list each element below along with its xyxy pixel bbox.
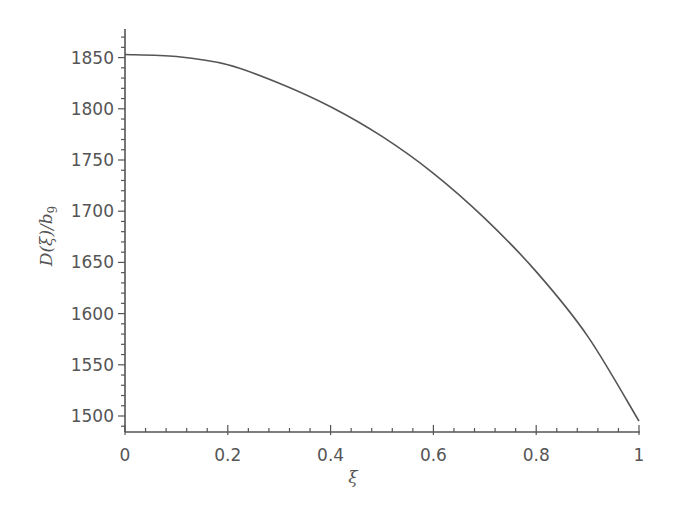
y-tick-label: 1750 <box>71 150 114 170</box>
chart: 1500155016001650170017501800185000.20.40… <box>0 0 676 507</box>
y-tick-label: 1850 <box>71 48 114 68</box>
y-axis-label-main: D(ξ)/b <box>36 213 56 267</box>
x-axis-label: ξ <box>348 467 359 487</box>
x-tick-label: 0.6 <box>420 445 447 465</box>
y-axis-label: D(ξ)/b9 <box>36 206 60 268</box>
x-tick-label: 0.8 <box>523 445 550 465</box>
x-tick-label: 0.2 <box>214 445 241 465</box>
x-tick-label: 0.4 <box>317 445 344 465</box>
y-tick-label: 1650 <box>71 252 114 272</box>
y-tick-label: 1700 <box>71 201 114 221</box>
tick-labels: 1500155016001650170017501800185000.20.40… <box>71 48 645 465</box>
y-axis-label-subscript: 9 <box>46 206 60 214</box>
y-tick-label: 1600 <box>71 304 114 324</box>
axes <box>125 29 640 432</box>
ticks <box>118 37 639 435</box>
x-tick-label: 1 <box>634 445 645 465</box>
data-line <box>125 55 639 422</box>
y-tick-label: 1500 <box>71 406 114 426</box>
y-tick-label: 1800 <box>71 99 114 119</box>
y-tick-label: 1550 <box>71 355 114 375</box>
x-tick-label: 0 <box>120 445 131 465</box>
